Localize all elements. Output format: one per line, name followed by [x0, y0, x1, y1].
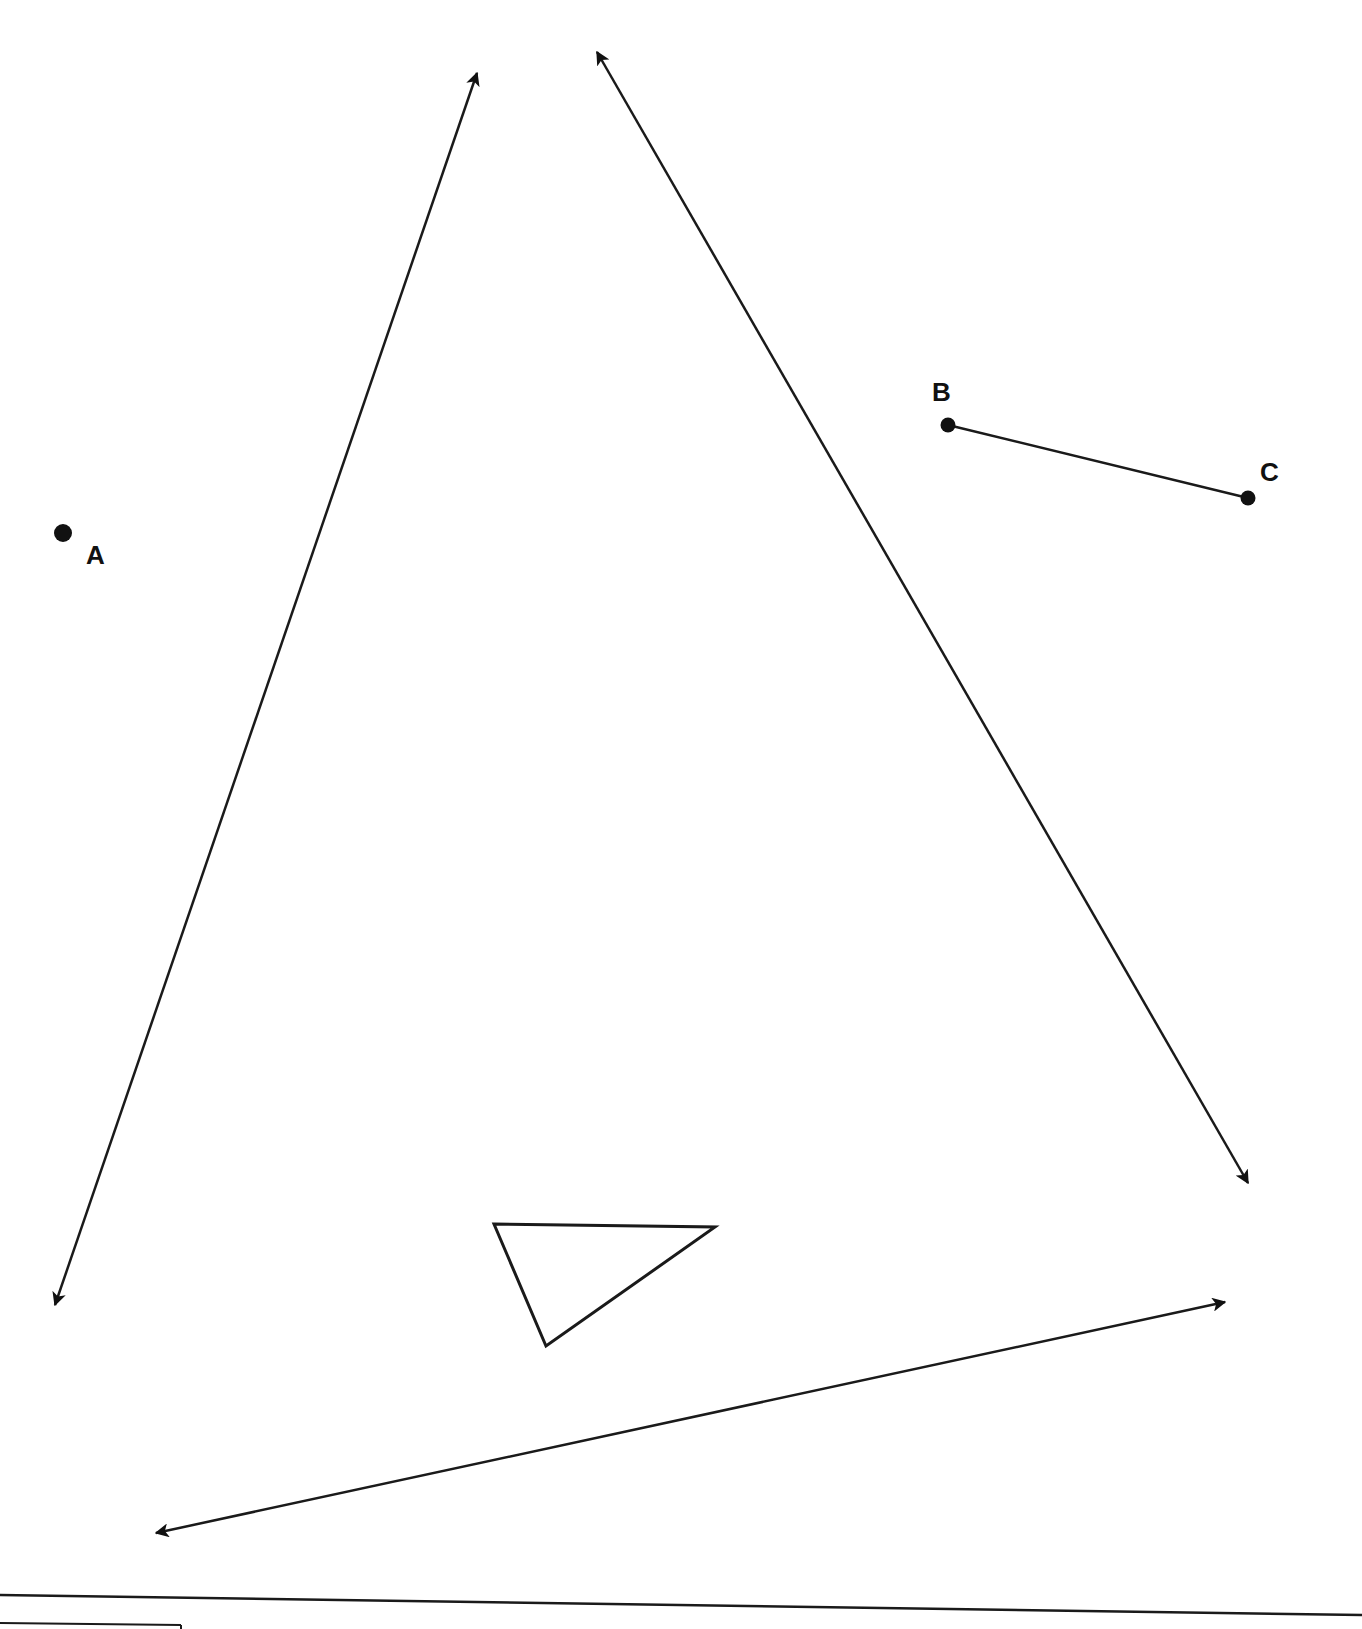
point-label-b: B	[932, 377, 951, 407]
line-bottom	[156, 1302, 1225, 1533]
line-right	[597, 52, 1248, 1183]
page-divider-line	[0, 1595, 1362, 1615]
point-b	[941, 418, 956, 433]
line-left	[55, 73, 477, 1305]
point-label-c: C	[1260, 457, 1279, 487]
geometry-canvas: A B C	[0, 0, 1362, 1629]
point-c	[1241, 491, 1256, 506]
point-a	[54, 524, 72, 542]
partial-box-edge	[0, 1623, 181, 1625]
segment-bc	[948, 425, 1248, 498]
triangle	[494, 1224, 715, 1346]
point-label-a: A	[86, 540, 105, 570]
